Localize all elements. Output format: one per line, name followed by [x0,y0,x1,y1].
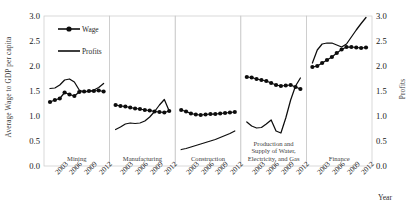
data-point-wage [143,108,147,112]
y-tick-left: 1.5 [18,86,40,96]
y-tick-right: 0.5 [376,136,398,146]
series-line-profits [116,100,170,130]
y-tick-left: 0.0 [18,161,40,171]
data-point-wage [162,110,166,114]
data-point-wage [289,83,293,87]
data-point-wage [330,55,334,59]
data-point-wage [58,96,62,100]
data-point-wage [279,84,283,88]
data-point-wage [53,98,57,102]
data-point-wage [179,108,183,112]
y-tick-left: 2.0 [18,61,40,71]
data-point-wage [315,64,319,68]
data-point-wage [310,65,314,69]
data-point-wage [218,111,222,115]
data-point-wage [128,105,132,109]
data-point-wage [274,83,278,87]
plot-area [0,0,408,223]
data-point-wage [335,51,339,55]
y-tick-right: 1.5 [376,86,398,96]
data-point-wage [340,47,344,51]
series-line-profits [312,18,366,64]
data-point-wage [63,90,67,94]
data-point-wage [364,45,368,49]
data-point-wage [203,112,207,116]
data-point-wage [259,78,263,82]
data-point-wage [298,87,302,91]
legend-marker-wage-dot [66,26,71,31]
data-point-wage [245,75,249,79]
y-tick-right: 3.0 [376,11,398,21]
data-point-wage [114,103,118,107]
chart-figure: Average Wage to GDP per capita Profits Y… [0,0,408,223]
series-line-profits [181,131,235,150]
data-point-wage [208,112,212,116]
data-point-wage [284,83,288,87]
data-point-wage [269,81,273,85]
panel-frame [110,16,176,166]
data-point-wage [194,112,198,116]
y-tick-right: 2.5 [376,36,398,46]
data-point-wage [233,110,237,114]
data-point-wage [118,104,122,108]
panel-frame [175,16,241,166]
y-tick-left: 1.0 [18,111,40,121]
panel-frame [306,16,372,166]
data-point-wage [354,45,358,49]
legend-label-profits: Profits [82,47,102,56]
data-point-wage [325,58,329,62]
y-tick-right: 0.0 [376,161,398,171]
data-point-wage [157,110,161,114]
data-point-wage [184,109,188,113]
y-tick-right: 1.0 [376,111,398,121]
y-tick-right: 2.0 [376,61,398,71]
data-point-wage [72,94,76,98]
data-point-wage [189,111,193,115]
data-point-wage [199,113,203,117]
data-point-wage [138,107,142,111]
data-point-wage [250,75,254,79]
y-tick-left: 3.0 [18,11,40,21]
legend-label-wage: Wage [82,25,99,34]
data-point-wage [213,112,217,116]
data-point-wage [228,110,232,114]
data-point-wage [223,111,227,115]
data-point-wage [264,79,268,83]
data-point-wage [320,61,324,65]
data-point-wage [349,45,353,49]
data-point-wage [48,100,52,104]
data-point-wage [67,92,71,96]
data-point-wage [97,88,101,92]
y-tick-left: 0.5 [18,136,40,146]
data-point-wage [254,77,258,81]
data-point-wage [123,104,127,108]
data-point-wage [148,108,152,112]
data-point-wage [102,89,106,93]
y-tick-left: 2.5 [18,36,40,46]
series-line-wage [50,91,104,103]
data-point-wage [359,46,363,50]
data-point-wage [133,106,137,110]
